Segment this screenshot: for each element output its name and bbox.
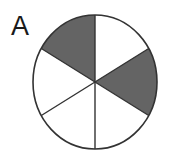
pie-figure: A — [0, 0, 170, 153]
pie-chart — [0, 0, 170, 153]
